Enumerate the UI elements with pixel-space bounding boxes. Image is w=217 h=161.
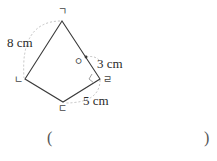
- measure-3cm: 3 cm: [97, 57, 123, 70]
- vertex-label-digeut: ㄷ: [58, 104, 67, 114]
- measure-8cm: 8 cm: [7, 36, 33, 49]
- point-o: [85, 56, 88, 59]
- measure-5cm: 5 cm: [83, 94, 109, 107]
- vertex-label-giyeok: ㄱ: [58, 7, 67, 17]
- vertex-label-rieul: ㄹ: [103, 75, 112, 85]
- vertex-label-nieun: ㄴ: [14, 75, 23, 85]
- quadrilateral: [25, 21, 100, 102]
- point-label-o: ㅇ: [74, 57, 83, 67]
- answer-open-paren: (: [47, 130, 52, 146]
- answer-close-paren: ): [204, 130, 209, 146]
- answer-blank[interactable]: [60, 130, 200, 148]
- right-angle-mark: [89, 74, 94, 83]
